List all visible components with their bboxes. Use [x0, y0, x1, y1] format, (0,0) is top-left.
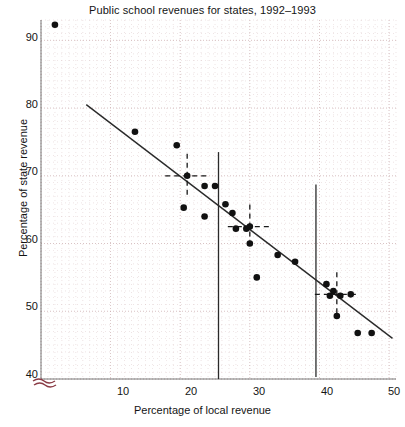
- scatter-plot-canvas: [0, 0, 405, 427]
- data-point: [229, 210, 236, 217]
- data-point: [222, 201, 229, 208]
- data-point: [52, 21, 59, 28]
- data-point: [253, 274, 260, 281]
- data-point: [337, 292, 344, 299]
- chart-figure: Public school revenues for states, 1992–…: [0, 0, 405, 427]
- data-point: [247, 223, 254, 230]
- data-point: [247, 240, 254, 247]
- data-point: [201, 183, 208, 190]
- data-point: [368, 330, 375, 337]
- crosshair-markers: [165, 154, 359, 317]
- data-point: [201, 213, 208, 220]
- data-point: [334, 313, 341, 320]
- data-point: [274, 252, 281, 259]
- data-point: [233, 225, 240, 232]
- data-point: [354, 330, 361, 337]
- data-point: [347, 291, 354, 298]
- data-point: [292, 259, 299, 266]
- data-point: [323, 281, 330, 288]
- data-point: [184, 172, 191, 179]
- data-point: [132, 128, 139, 135]
- axis-break-icon: [33, 379, 56, 387]
- data-point: [180, 204, 187, 211]
- data-point: [173, 142, 180, 149]
- data-point: [327, 292, 334, 299]
- regression-line: [86, 105, 392, 339]
- data-point: [212, 183, 219, 190]
